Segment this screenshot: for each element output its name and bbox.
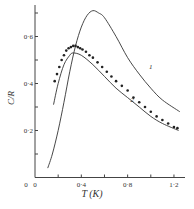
- data-point: [70, 46, 73, 49]
- data-point: [81, 48, 84, 51]
- data-point: [85, 50, 88, 53]
- data-point: [60, 59, 63, 62]
- heat-capacity-chart: 00·40·81·2 0·20·40·60 12 T (K) C/R: [0, 0, 194, 209]
- data-point: [77, 46, 80, 49]
- data-point: [72, 45, 75, 48]
- data-point: [79, 47, 82, 50]
- data-point: [110, 75, 113, 78]
- curve-labels: 12: [131, 63, 153, 104]
- data-point: [65, 49, 68, 52]
- curve-1: [48, 11, 180, 169]
- curve-label: 2: [131, 96, 135, 104]
- data-point: [173, 126, 176, 129]
- data-point: [105, 70, 108, 73]
- y-ticks: 0·20·40·60: [24, 13, 38, 189]
- x-axis-label: T (K): [81, 188, 103, 200]
- curve-label: 1: [149, 63, 153, 71]
- x-tick-label: 0: [33, 181, 37, 189]
- y-tick-label: 0·4: [24, 80, 34, 88]
- x-ticks: 00·40·81·2: [33, 175, 179, 189]
- origin-label: 0: [24, 181, 28, 189]
- data-point: [161, 119, 164, 122]
- data-point: [176, 127, 179, 130]
- data-point: [56, 73, 59, 76]
- data-point: [74, 45, 77, 48]
- data-point: [144, 106, 147, 109]
- data-point: [167, 122, 170, 125]
- curve-2: [54, 53, 179, 131]
- x-tick-label: 0·8: [123, 181, 133, 189]
- data-point: [88, 54, 91, 57]
- y-tick-label: 0·6: [24, 33, 34, 41]
- x-tick-label: 1·2: [169, 181, 179, 189]
- data-point: [53, 80, 56, 83]
- data-point: [96, 61, 99, 64]
- data-point: [155, 115, 158, 118]
- data-point: [138, 101, 141, 104]
- data-point: [63, 54, 66, 57]
- data-point: [121, 85, 124, 88]
- data-point: [115, 80, 118, 83]
- data-point: [150, 110, 153, 113]
- data-point: [126, 89, 129, 92]
- data-point: [92, 56, 95, 59]
- data-point: [67, 47, 70, 50]
- data-point: [101, 66, 104, 69]
- y-tick-label: 0·2: [24, 127, 34, 135]
- data-point: [58, 66, 61, 69]
- series: [48, 11, 180, 169]
- axes: [35, 5, 185, 178]
- y-axis-label: C/R: [6, 91, 16, 106]
